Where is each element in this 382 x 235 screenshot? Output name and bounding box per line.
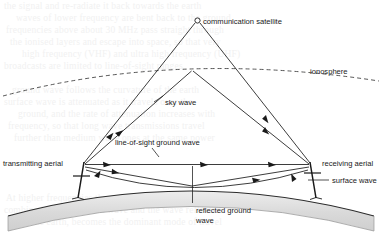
surface-wave-label: surface wave xyxy=(332,176,377,185)
sky-wave-down-arrowhead xyxy=(262,127,272,136)
sky-wave-label: sky wave xyxy=(165,98,196,107)
line-of-sight-label: line-of-sight ground wave xyxy=(115,138,200,147)
surface-wave-arrowhead-left xyxy=(94,169,103,179)
reflected-ground-wave-paths xyxy=(85,167,309,186)
transmitting-aerial-mast xyxy=(78,162,84,198)
receiving-aerial-base xyxy=(310,198,322,200)
line-of-sight-leader-line xyxy=(152,148,159,157)
sky-wave-arrowheads xyxy=(115,127,271,137)
sky-wave-up-arrowhead xyxy=(115,128,125,137)
earth-fill xyxy=(8,191,374,231)
line-of-sight-ground-wave: line-of-sight ground wave xyxy=(85,138,309,167)
surface-wave-annotation: surface wave xyxy=(308,176,377,185)
receiving-aerial-label: receiving aerial xyxy=(322,159,373,168)
communication-satellite-label: communication satellite xyxy=(203,17,282,26)
reflected-ground-wave-label-line1: reflected ground xyxy=(196,206,251,215)
sky-wave-annotation: sky wave xyxy=(154,96,196,107)
communication-satellite: communication satellite xyxy=(195,17,282,26)
earth-crust xyxy=(8,191,374,231)
ionosphere-label: ionosphere xyxy=(310,67,348,76)
radio-propagation-diagram: ionosphere communication satellite sky w… xyxy=(0,0,382,235)
satellite-downlink-path xyxy=(200,23,310,163)
transmitting-aerial: transmitting aerial xyxy=(3,159,90,200)
transmitting-aerial-base xyxy=(72,198,84,200)
reflected-ground-wave-label-line2: wave xyxy=(195,216,214,225)
reflected-down-arrowhead xyxy=(111,169,120,176)
sky-wave-upleg xyxy=(85,71,192,164)
sky-wave-leader-line xyxy=(154,96,163,102)
satellite-icon xyxy=(195,18,200,23)
surface-wave-path xyxy=(86,169,308,188)
transmitting-aerial-label: transmitting aerial xyxy=(3,159,63,168)
satellite-path-arrowheads xyxy=(106,115,271,140)
downlink-arrowhead xyxy=(262,115,271,125)
sky-wave-paths xyxy=(85,71,309,164)
sky-wave-downleg xyxy=(193,71,309,164)
